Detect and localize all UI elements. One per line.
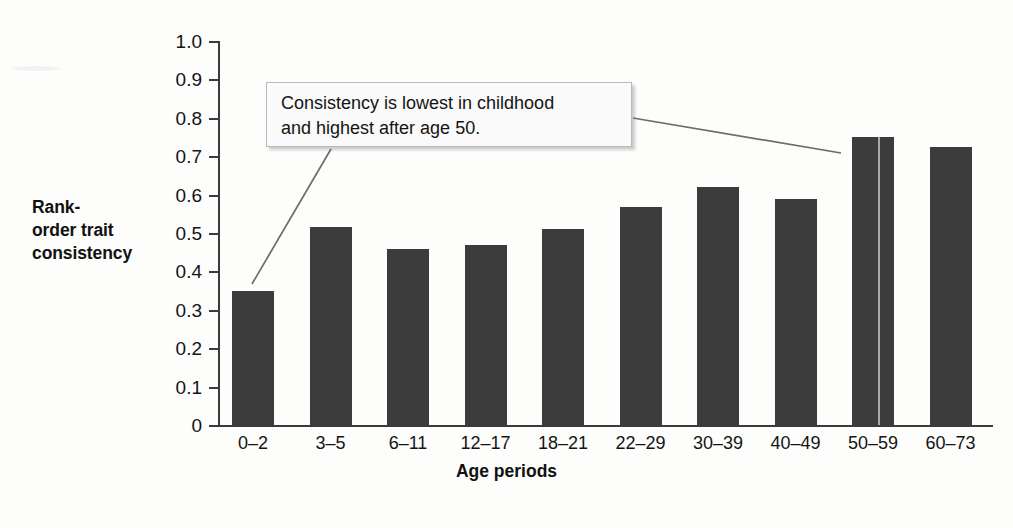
x-axis-tick-label: 40–49 xyxy=(770,433,820,454)
annotation-text: Consistency is lowest in childhood and h… xyxy=(281,91,621,141)
y-axis-tick-label: 0.1 xyxy=(176,377,202,399)
annotation-text-line-2: and highest after age 50. xyxy=(281,116,621,141)
y-axis-tick-mark: 0.6 xyxy=(209,195,218,197)
annotation-callout: Consistency is lowest in childhood and h… xyxy=(266,82,632,147)
chart-figure: Rank- order trait consistency 00.10.20.3… xyxy=(0,0,1013,528)
y-axis-label-line-2: order trait xyxy=(32,219,182,242)
y-axis-label: Rank- order trait consistency xyxy=(32,196,182,265)
y-axis-tick-label: 1.0 xyxy=(176,31,202,53)
scan-artifact xyxy=(12,66,60,71)
y-axis-tick-label: 0.4 xyxy=(176,261,202,283)
x-axis-tick-label: 30–39 xyxy=(693,433,743,454)
bar xyxy=(775,199,817,425)
y-axis-tick-mark: 0.8 xyxy=(209,118,218,120)
y-axis-label-line-3: consistency xyxy=(32,242,182,265)
y-axis-tick-mark: 0.3 xyxy=(209,310,218,312)
y-axis-tick-mark: 0.5 xyxy=(209,233,218,235)
y-axis-tick-label: 0.7 xyxy=(176,146,202,168)
y-axis-tick-label: 0.5 xyxy=(176,223,202,245)
x-axis-tick-label: 60–73 xyxy=(925,433,975,454)
y-axis-tick-mark: 0.9 xyxy=(209,79,218,81)
bar xyxy=(542,229,584,425)
x-axis-tick-label: 22–29 xyxy=(615,433,665,454)
bar xyxy=(697,187,739,425)
y-axis-label-line-1: Rank- xyxy=(32,196,182,219)
x-axis-tick-label: 3–5 xyxy=(315,433,345,454)
y-axis-tick-mark: 0 xyxy=(209,425,218,427)
y-axis-tick-label: 0.8 xyxy=(176,108,202,130)
x-axis-tick-label: 6–11 xyxy=(389,433,428,454)
y-axis-tick-label: 0 xyxy=(191,415,202,437)
y-axis-tick-label: 0.6 xyxy=(176,185,202,207)
y-axis-tick-mark: 0.7 xyxy=(209,156,218,158)
bar xyxy=(852,137,894,425)
x-axis-line xyxy=(218,425,993,427)
x-axis-tick-label: 50–59 xyxy=(848,433,898,454)
bar xyxy=(465,245,507,425)
x-axis-title: Age periods xyxy=(0,461,1013,482)
x-axis-tick-label: 0–2 xyxy=(238,433,268,454)
y-axis-tick-mark: 0.2 xyxy=(209,348,218,350)
y-axis-tick-mark: 1.0 xyxy=(209,41,218,43)
y-axis-line xyxy=(218,41,220,426)
bar xyxy=(232,291,274,425)
x-axis-tick-label: 18–21 xyxy=(538,433,588,454)
x-axis-tick-label: 12–17 xyxy=(460,433,510,454)
bar-scan-seam xyxy=(878,137,880,425)
annotation-text-line-1: Consistency is lowest in childhood xyxy=(281,91,621,116)
y-axis-tick-label: 0.9 xyxy=(176,69,202,91)
y-axis-tick-label: 0.3 xyxy=(176,300,202,322)
bar xyxy=(620,207,662,425)
y-axis-tick-mark: 0.4 xyxy=(209,271,218,273)
y-axis-tick-label: 0.2 xyxy=(176,338,202,360)
bar xyxy=(310,227,352,425)
bar xyxy=(387,249,429,425)
y-axis-tick-mark: 0.1 xyxy=(209,387,218,389)
bar xyxy=(930,147,972,425)
